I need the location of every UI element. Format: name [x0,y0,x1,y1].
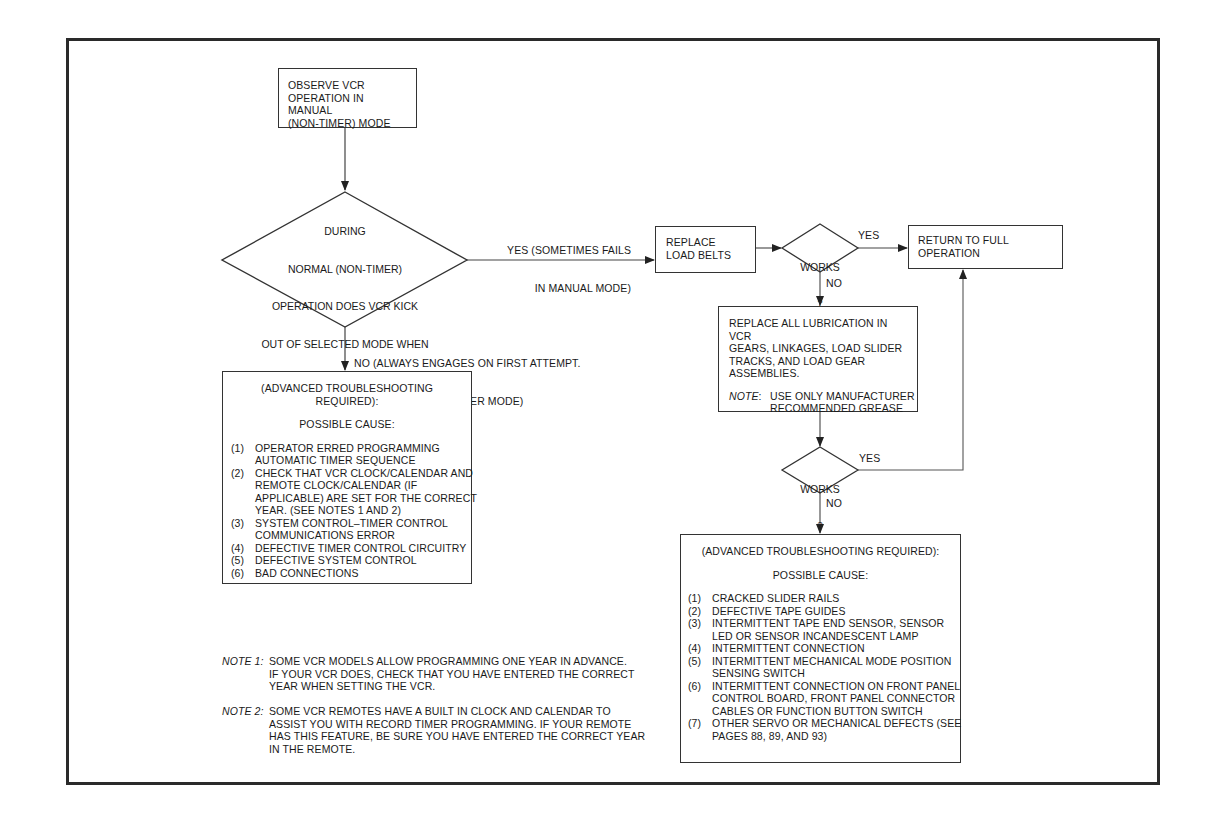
start-box-observe-vcr: OBSERVE VCR OPERATION IN MANUAL (NON-TIM… [278,68,417,128]
cause-text: CRACKED SLIDER RAILS [712,592,839,605]
left-possible-cause: POSSIBLE CAUSE: [231,418,463,431]
cause-text: OTHER SERVO OR MECHANICAL DEFECTS (SEE P… [712,717,961,742]
cause-number: (7) [688,717,712,742]
no-main-line-1: NO (ALWAYS ENGAGES ON FIRST ATTEMPT. [354,357,580,370]
cause-number: (6) [688,680,712,718]
left-advanced-header: (ADVANCED TROUBLESHOOTING REQUIRED): [231,382,463,407]
left-cause-list: (1)OPERATOR ERRED PROGRAMMING AUTOMATIC … [231,442,463,580]
cause-number: (3) [688,617,712,642]
lubrication-note: NOTE: USE ONLY MANUFACTURER RECOMMENDED … [729,390,907,415]
lubrication-line-2: GEARS, LINKAGES, LOAD SLIDER [729,342,907,355]
works-1-no-label: NO [826,277,842,290]
cause-number: (2) [688,605,712,618]
right-cause-item: (7)OTHER SERVO OR MECHANICAL DEFECTS (SE… [688,717,953,742]
note-1-text: SOME VCR MODELS ALLOW PROGRAMMING ONE YE… [269,655,634,693]
works-2-label: WORKS [782,483,858,496]
cause-number: (2) [231,467,255,517]
decision-line-2: NORMAL (NON-TIMER) [222,263,468,276]
cause-number: (1) [688,592,712,605]
cause-text: CHECK THAT VCR CLOCK/CALENDAR AND REMOTE… [255,467,477,517]
right-cause-item: (5)INTERMITTENT MECHANICAL MODE POSITION… [688,655,953,680]
note-1: NOTE 1: SOME VCR MODELS ALLOW PROGRAMMIN… [222,655,634,693]
note-2: NOTE 2: SOME VCR REMOTES HAVE A BUILT IN… [222,705,645,755]
left-cause-item: (3)SYSTEM CONTROL–TIMER CONTROL COMMUNIC… [231,517,463,542]
yes-main-line-1: YES (SOMETIMES FAILS [476,244,631,257]
right-cause-list: (1)CRACKED SLIDER RAILS (2)DEFECTIVE TAP… [688,592,953,742]
lubrication-line-3: TRACKS, AND LOAD GEAR [729,355,907,368]
replace-belts-line-1: REPLACE [666,236,745,249]
note-1-label: NOTE 1: [222,655,269,693]
right-possible-cause: POSSIBLE CAUSE: [688,569,953,582]
works-2-text: WORKS ? [782,458,858,542]
works-1-yes-label: YES [858,229,879,242]
connector-lines [0,0,1221,827]
edge-label-yes-main: YES (SOMETIMES FAILS IN MANUAL MODE) [476,219,631,307]
start-line-3: (NON-TIMER) MODE [288,117,407,130]
return-line-1: RETURN TO FULL [918,234,1053,247]
note-label: NOTE [729,390,759,402]
cause-number: (5) [688,655,712,680]
note-text: USE ONLY MANUFACTURER RECOMMENDED GREASE [770,390,915,415]
cause-text: INTERMITTENT MECHANICAL MODE POSITION SE… [712,655,951,680]
left-cause-item: (2)CHECK THAT VCR CLOCK/CALENDAR AND REM… [231,467,463,517]
cause-text: OPERATOR ERRED PROGRAMMING AUTOMATIC TIM… [255,442,440,467]
works-1-label: WORKS [782,261,858,274]
start-line-2: OPERATION IN MANUAL [288,92,407,117]
replace-load-belts-box: REPLACE LOAD BELTS [655,226,756,273]
cause-text: BAD CONNECTIONS [255,567,359,580]
right-cause-item: (3)INTERMITTENT TAPE END SENSOR, SENSOR … [688,617,953,642]
cause-number: (1) [231,442,255,467]
yes-main-line-2: IN MANUAL MODE) [476,282,631,295]
cause-text: INTERMITTENT CONNECTION ON FRONT PANEL C… [712,680,960,718]
left-cause-item: (1)OPERATOR ERRED PROGRAMMING AUTOMATIC … [231,442,463,467]
works-2-yes-label: YES [859,452,880,465]
right-cause-item: (4)INTERMITTENT CONNECTION [688,642,953,655]
replace-lubrication-box: REPLACE ALL LUBRICATION IN VCR GEARS, LI… [718,306,918,412]
left-advanced-troubleshooting-box: (ADVANCED TROUBLESHOOTING REQUIRED): POS… [222,371,472,584]
return-to-full-operation-box: RETURN TO FULL OPERATION [908,225,1063,269]
works-2-question-mark: ? [782,521,858,530]
left-cause-item: (4)DEFECTIVE TIMER CONTROL CIRCUITRY [231,542,463,555]
left-cause-item: (6)BAD CONNECTIONS [231,567,463,580]
replace-belts-line-2: LOAD BELTS [666,249,745,262]
cause-number: (6) [231,567,255,580]
cause-text: SYSTEM CONTROL–TIMER CONTROL COMMUNICATI… [255,517,448,542]
cause-text: INTERMITTENT TAPE END SENSOR, SENSOR LED… [712,617,944,642]
right-cause-item: (1)CRACKED SLIDER RAILS [688,592,953,605]
cause-number: (3) [231,517,255,542]
cause-text: DEFECTIVE TAPE GUIDES [712,605,846,618]
right-advanced-troubleshooting-box: (ADVANCED TROUBLESHOOTING REQUIRED): POS… [680,534,961,763]
right-cause-item: (6)INTERMITTENT CONNECTION ON FRONT PANE… [688,680,953,718]
start-line-1: OBSERVE VCR [288,79,407,92]
cause-text: DEFECTIVE SYSTEM CONTROL [255,554,417,567]
cause-text: INTERMITTENT CONNECTION [712,642,865,655]
right-cause-item: (2)DEFECTIVE TAPE GUIDES [688,605,953,618]
note-2-label: NOTE 2: [222,705,269,755]
cause-number: (4) [231,542,255,555]
lubrication-line-1: REPLACE ALL LUBRICATION IN VCR [729,317,907,342]
cause-number: (5) [231,554,255,567]
cause-number: (4) [688,642,712,655]
cause-text: DEFECTIVE TIMER CONTROL CIRCUITRY [255,542,466,555]
left-cause-item: (5)DEFECTIVE SYSTEM CONTROL [231,554,463,567]
lubrication-line-4: ASSEMBLIES. [729,367,907,380]
decision-line-3: OPERATION DOES VCR KICK [222,300,468,313]
decision-line-1: DURING [222,225,468,238]
works-2-no-label: NO [826,497,842,510]
note-2-text: SOME VCR REMOTES HAVE A BUILT IN CLOCK A… [269,705,645,755]
right-advanced-header: (ADVANCED TROUBLESHOOTING REQUIRED): [688,545,953,558]
return-line-2: OPERATION [918,247,1053,260]
